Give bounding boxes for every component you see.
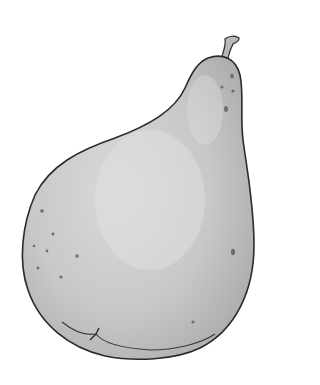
pear-stem <box>222 36 239 58</box>
highlight <box>95 130 205 270</box>
